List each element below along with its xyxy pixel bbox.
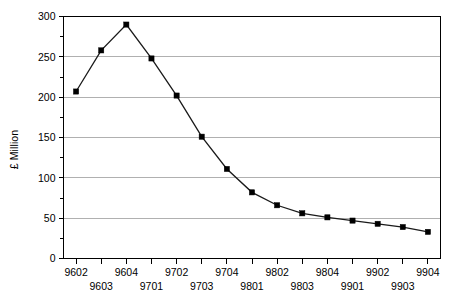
x-tick-label: 9603 (90, 280, 114, 292)
data-point-marker (400, 224, 405, 229)
x-tick-label: 9902 (366, 266, 390, 278)
y-tick-label: 50 (44, 212, 56, 224)
data-point-marker (199, 134, 204, 139)
data-point-marker (149, 56, 154, 61)
x-tick-label: 9602 (64, 266, 88, 278)
data-point-marker (174, 93, 179, 98)
x-tick-label: 9803 (291, 280, 315, 292)
y-tick-label: 250 (38, 51, 56, 63)
data-series-group (73, 22, 430, 235)
data-point-marker (224, 166, 229, 171)
y-tick-label: 0 (50, 252, 56, 264)
y-tick-label: 100 (38, 172, 56, 184)
y-tick-label: 200 (38, 91, 56, 103)
data-point-marker (249, 190, 254, 195)
y-tick-labels-group: 050100150200250300 (38, 10, 56, 264)
data-point-marker (275, 203, 280, 208)
y-tick-label: 150 (38, 131, 56, 143)
x-tick-label: 9701 (140, 280, 164, 292)
line-chart-plot: 050100150200250300 960296039604970197029… (0, 0, 455, 299)
x-tick-label: 9802 (265, 266, 289, 278)
data-point-marker (73, 89, 78, 94)
data-point-marker (300, 211, 305, 216)
x-tick-label: 9702 (165, 266, 189, 278)
data-point-marker (99, 48, 104, 53)
x-tick-label: 9801 (240, 280, 264, 292)
data-point-marker (124, 22, 129, 27)
x-tick-labels-group: 9602960396049701970297039704980198029803… (64, 266, 439, 292)
x-tick-label: 9901 (341, 280, 365, 292)
y-tick-marks-group (59, 17, 64, 259)
data-point-marker (350, 218, 355, 223)
data-point-marker (325, 215, 330, 220)
series-line-path (76, 25, 428, 232)
x-tick-marks-group (76, 259, 428, 264)
x-tick-label: 9704 (215, 266, 239, 278)
x-tick-label: 9904 (416, 266, 440, 278)
x-tick-label: 9804 (316, 266, 340, 278)
x-tick-label: 9703 (190, 280, 214, 292)
chart-container: £ Million 050100150200250300 96029603960… (0, 0, 455, 299)
x-tick-label: 9903 (391, 280, 415, 292)
x-tick-label: 9604 (115, 266, 139, 278)
gridlines-group (64, 17, 441, 219)
y-tick-label: 300 (38, 10, 56, 22)
data-point-marker (425, 229, 430, 234)
data-point-marker (375, 221, 380, 226)
